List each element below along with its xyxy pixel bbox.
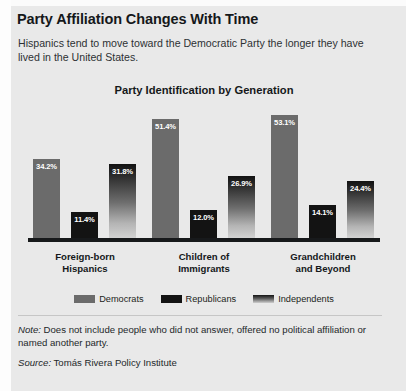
bar-value-label: 12.0% <box>190 213 217 222</box>
bar-group-bars: 34.2%11.4%31.8% <box>33 100 137 238</box>
bar-value-label: 31.8% <box>109 167 136 176</box>
bar-republicans: 14.1% <box>309 205 336 238</box>
bar-republicans: 11.4% <box>71 212 98 238</box>
bar-group: 51.4%12.0%26.9% <box>152 100 256 238</box>
legend-label-independents: Independents <box>278 294 334 304</box>
deck-text: Hispanics tend to move toward the Democr… <box>18 37 380 64</box>
legend-item-democrats: Democrats <box>74 294 143 304</box>
bar-republicans: 12.0% <box>190 210 217 238</box>
x-axis-baseline <box>28 238 380 242</box>
top-margin <box>0 0 406 6</box>
bar-group: 34.2%11.4%31.8% <box>33 100 137 238</box>
bar-independents: 24.4% <box>347 181 374 238</box>
bar-democrats: 34.2% <box>33 159 60 238</box>
bar-value-label: 53.1% <box>271 118 298 127</box>
footnote-divider <box>18 315 382 316</box>
bar-independents: 26.9% <box>228 176 255 238</box>
note-body: Does not include people who did not answ… <box>18 324 366 348</box>
bar-group-bars: 53.1%14.1%24.4% <box>271 100 375 238</box>
bar-group-bars: 51.4%12.0%26.9% <box>152 100 256 238</box>
infographic-figure: Party Affiliation Changes With Time Hisp… <box>0 0 406 391</box>
legend-label-republicans: Republicans <box>186 294 237 304</box>
note-text: Note: Does not include people who did no… <box>18 324 384 349</box>
bar-value-label: 51.4% <box>152 122 179 131</box>
source-lead: Source: <box>18 357 51 368</box>
legend-item-independents: Independents <box>253 294 334 304</box>
legend-label-democrats: Democrats <box>99 294 143 304</box>
chart-legend: Democrats Republicans Independents <box>11 294 397 304</box>
bar-value-label: 24.4% <box>347 184 374 193</box>
legend-swatch-independents <box>253 295 274 303</box>
bar-chart-plot-area: 34.2%11.4%31.8%51.4%12.0%26.9%53.1%14.1%… <box>0 100 406 242</box>
bar-independents: 31.8% <box>109 164 136 238</box>
bar-democrats: 53.1% <box>271 115 298 238</box>
category-label: Foreign-bornHispanics <box>19 251 151 276</box>
bar-value-label: 11.4% <box>71 215 98 224</box>
chart-title: Party Identification by Generation <box>11 84 397 96</box>
source-body: Tomás Rivera Policy Institute <box>51 357 177 368</box>
headline: Party Affiliation Changes With Time <box>17 11 389 28</box>
bar-value-label: 26.9% <box>228 179 255 188</box>
bar-group: 53.1%14.1%24.4% <box>271 100 375 238</box>
legend-swatch-republicans <box>161 295 182 303</box>
legend-swatch-democrats <box>74 295 95 303</box>
bar-democrats: 51.4% <box>152 119 179 238</box>
source-text: Source: Tomás Rivera Policy Institute <box>18 357 384 368</box>
category-label: Grandchildrenand Beyond <box>257 251 389 276</box>
bar-value-label: 34.2% <box>33 162 60 171</box>
legend-item-republicans: Republicans <box>161 294 237 304</box>
bar-value-label: 14.1% <box>309 208 336 217</box>
category-label: Children ofImmigrants <box>138 251 270 276</box>
note-lead: Note: <box>18 324 41 335</box>
